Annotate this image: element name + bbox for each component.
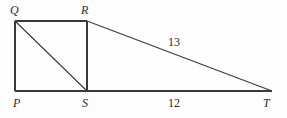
vertex-label-R: R <box>81 4 88 16</box>
vertex-label-Q: Q <box>10 4 19 16</box>
measure-label-rt: 13 <box>168 36 180 48</box>
geometry-figure: Q R P S T 13 12 <box>0 0 287 118</box>
measure-label-st: 12 <box>168 97 180 109</box>
vertex-label-S: S <box>82 97 88 109</box>
segment-RT-hypotenuse <box>87 21 272 91</box>
vertex-label-T: T <box>263 97 270 109</box>
vertex-label-P: P <box>13 97 20 109</box>
figure-canvas <box>0 0 287 118</box>
segment-QS-diagonal <box>15 21 87 91</box>
